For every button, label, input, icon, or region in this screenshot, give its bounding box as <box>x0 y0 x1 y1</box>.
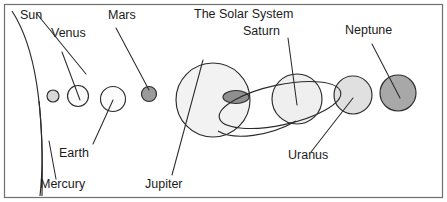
sun-limb-outer-arc <box>12 11 42 196</box>
planet-mercury <box>47 90 59 102</box>
label-neptune: Neptune <box>345 23 392 37</box>
planet-mars <box>142 87 157 102</box>
label-mars: Mars <box>108 8 136 22</box>
sun-body <box>12 11 42 196</box>
solar-system-diagram: The Solar System Sun Venus Mars Saturn N… <box>0 0 447 202</box>
solar-system-canvas: The Solar System Sun Venus Mars Saturn N… <box>0 0 447 202</box>
leader-sun <box>37 14 86 74</box>
jupiter-great-red-spot <box>223 91 249 104</box>
label-saturn: Saturn <box>243 24 280 38</box>
planet-earth <box>101 87 126 112</box>
label-earth: Earth <box>59 146 89 160</box>
planet-uranus <box>334 76 372 114</box>
planet-neptune <box>380 75 416 111</box>
label-mercury: Mercury <box>40 177 86 191</box>
leader-mars <box>116 28 149 90</box>
label-sun: Sun <box>20 8 42 22</box>
diagram-title: The Solar System <box>194 7 293 21</box>
label-venus: Venus <box>51 26 86 40</box>
label-jupiter: Jupiter <box>145 177 183 191</box>
leader-mercury <box>49 141 56 179</box>
label-uranus: Uranus <box>288 148 328 162</box>
